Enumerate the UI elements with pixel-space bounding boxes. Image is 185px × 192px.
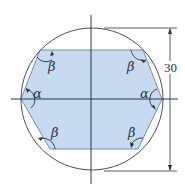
dimension-arrow-bottom xyxy=(168,165,172,171)
dimension-label: 30 xyxy=(164,60,177,75)
angle-arrow-bottom-left xyxy=(38,137,43,141)
dimension-arrow-top xyxy=(168,28,172,34)
angle-label-top-right: β xyxy=(126,59,135,74)
angle-label-bottom-right: β xyxy=(127,125,136,140)
hexagon-circle-diagram: 30 β β α α β β xyxy=(0,0,185,192)
angle-label-right: α xyxy=(140,86,149,101)
angle-label-top-left: β xyxy=(47,59,56,74)
angle-label-bottom-left: β xyxy=(50,125,59,140)
angle-label-left: α xyxy=(33,86,42,101)
